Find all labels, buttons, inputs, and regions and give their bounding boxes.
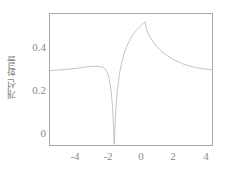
x-tick-label-0: 0 xyxy=(131,150,151,162)
x-tick-label--4: -4 xyxy=(65,150,85,162)
x-tick-label--2: -2 xyxy=(98,150,118,162)
plot-frame xyxy=(50,14,213,146)
y-tick-label-0: 0 xyxy=(16,127,46,139)
y-tick-label-0.2: 0.2 xyxy=(16,84,46,96)
chart-figure: 개선 확률 0.4 0.2 0 -4 -2 0 2 4 xyxy=(0,0,227,179)
y-tick-label-0.4: 0.4 xyxy=(16,41,46,53)
x-tick-label-4: 4 xyxy=(196,150,216,162)
x-tick-label-2: 2 xyxy=(163,150,183,162)
data-series-line xyxy=(49,22,212,145)
